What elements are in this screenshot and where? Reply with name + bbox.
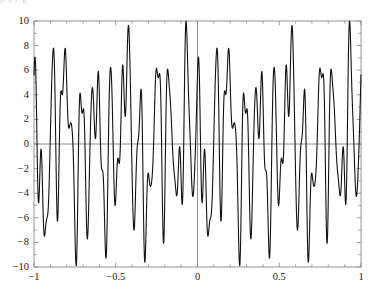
figure-container: p o e g −10−8−6−4−20246810 −1−0.500.51 (0, 0, 375, 298)
y-tick-label: 8 (24, 40, 29, 51)
plot-canvas (0, 0, 375, 298)
y-tick-label: −6 (18, 212, 29, 223)
y-tick-label: 10 (19, 15, 30, 26)
x-tick-label: −0.5 (96, 271, 136, 282)
zero-axis-lines (34, 21, 361, 267)
x-tick-label: 1 (341, 271, 375, 282)
x-tick-label: 0.5 (259, 271, 299, 282)
y-tick-label: −8 (18, 236, 29, 247)
y-tick-label: 4 (24, 89, 29, 100)
x-tick-label: 0 (178, 271, 218, 282)
x-tick-label: −1 (14, 271, 54, 282)
y-tick-label: 0 (24, 138, 29, 149)
y-tick-label: 6 (24, 64, 29, 75)
y-tick-label: 2 (24, 113, 29, 124)
y-tick-label: −2 (18, 163, 29, 174)
y-tick-label: −4 (18, 187, 29, 198)
